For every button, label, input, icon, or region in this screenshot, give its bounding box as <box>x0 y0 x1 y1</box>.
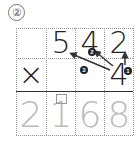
step-arrows <box>16 28 133 135</box>
step-badge-3: 3 <box>80 66 88 74</box>
grid-line <box>16 135 133 136</box>
problem-number: ② <box>8 4 25 21</box>
multiplication-grid: 5 4 2 × 4 2 1 6 8 1 2 3 <box>16 28 133 135</box>
step-badge-2: 2 <box>88 48 96 56</box>
step-badge-1: 1 <box>124 67 132 75</box>
